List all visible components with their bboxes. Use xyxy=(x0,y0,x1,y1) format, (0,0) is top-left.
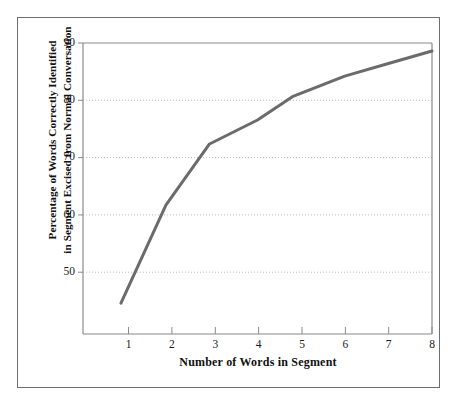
y-tick-label-60: 60 xyxy=(45,209,75,221)
x-axis-title: Number of Words in Segment xyxy=(83,355,433,370)
plot-area-background xyxy=(83,43,432,334)
chart-figure: 90 80 70 60 50 1 2 3 4 5 6 7 8 Percentag… xyxy=(0,0,456,406)
y-tick-label-70: 70 xyxy=(45,151,75,163)
x-tick-label-1: 1 xyxy=(119,339,139,351)
y-tick-label-90: 90 xyxy=(45,37,75,49)
x-tick-label-8: 8 xyxy=(422,339,442,351)
x-tick-label-3: 3 xyxy=(205,339,225,351)
y-tick-marks-group xyxy=(78,43,83,272)
x-tick-label-2: 2 xyxy=(162,339,182,351)
x-tick-label-6: 6 xyxy=(335,339,355,351)
x-tick-label-5: 5 xyxy=(292,339,312,351)
x-tick-label-4: 4 xyxy=(249,339,269,351)
y-tick-label-80: 80 xyxy=(45,94,75,106)
y-tick-label-50: 50 xyxy=(45,266,75,278)
x-tick-label-7: 7 xyxy=(379,339,399,351)
